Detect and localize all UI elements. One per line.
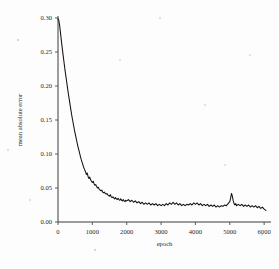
x-tick-label-3: 3000: [154, 228, 168, 235]
scan-speck-3: [204, 104, 206, 106]
y-tick-label-5: 0.25: [40, 48, 52, 55]
y-axis-title: mean absolute error: [16, 93, 23, 146]
x-tick-label-2: 2000: [120, 228, 134, 235]
x-tick-label-6: 6000: [258, 228, 272, 235]
scan-speck-0: [17, 39, 19, 41]
scan-speck-7: [7, 149, 9, 151]
y-tick-label-3: 0.15: [40, 116, 52, 123]
scan-speck-9: [224, 164, 226, 166]
scan-speck-5: [159, 17, 161, 19]
y-tick-label-2: 0.10: [40, 150, 52, 157]
x-tick-label-5: 5000: [223, 228, 237, 235]
series-line-0: [58, 19, 266, 211]
x-tick-label-1: 1000: [86, 228, 100, 235]
y-tick-label-1: 0.05: [40, 184, 52, 191]
line-chart: 0.000.050.100.150.200.250.30010002000300…: [0, 0, 279, 269]
x-tick-label-4: 4000: [189, 228, 203, 235]
x-tick-label-0: 0: [56, 228, 60, 235]
scan-speck-4: [94, 249, 96, 251]
y-tick-label-4: 0.20: [40, 82, 52, 89]
y-tick-label-6: 0.30: [40, 14, 52, 21]
scan-speck-1: [249, 54, 251, 56]
scan-speck-2: [29, 199, 31, 201]
scan-speck-8: [119, 59, 121, 61]
chart-figure: 0.000.050.100.150.200.250.30010002000300…: [0, 0, 279, 269]
y-tick-label-0: 0.00: [40, 218, 52, 225]
x-axis-title: epoch: [157, 240, 173, 247]
